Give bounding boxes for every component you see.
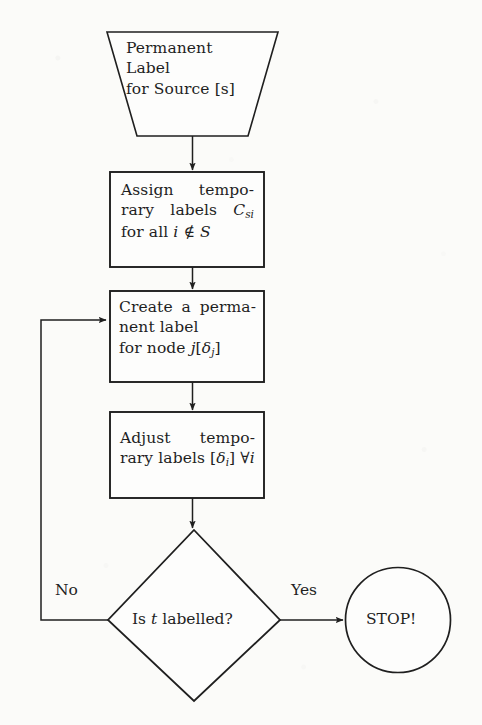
adjust-line-1-right: tempo- (200, 428, 255, 448)
adjust-line-2-close: ] (229, 449, 235, 467)
adjust-line-2-mid: labels (158, 449, 205, 467)
create-line-3-close: ] (214, 339, 220, 357)
create-line-1-mid: a (182, 297, 191, 317)
decision-node-text: Is t labelled? (132, 610, 233, 628)
assign-line-3-S: S (200, 223, 211, 241)
create-line-2: nent label (119, 317, 256, 337)
flowchart-canvas: Permanent Label for Source [s] Assign te… (0, 0, 482, 725)
create-line-1-right: perma- (200, 297, 256, 317)
assign-line-3-pre: for all (121, 223, 173, 241)
create-node-text: Create a perma- nent label for node j[δj… (119, 297, 256, 360)
adjust-line-2-left: rary (120, 449, 153, 467)
decision-text-post: labelled? (157, 610, 233, 628)
edge-label-no: No (55, 581, 78, 599)
adjust-line-1: Adjust tempo- (120, 428, 255, 448)
adjust-line-2-forall: ∀ (240, 449, 249, 467)
assign-line-1-right: tempo- (199, 180, 254, 200)
assign-line-2-mid: labels (170, 200, 217, 222)
adjust-line-2-i: i (250, 449, 255, 467)
create-line-3-delta: δ (202, 339, 211, 357)
start-node-text: Permanent Label for Source [s] (126, 38, 271, 99)
adjust-line-2: rary labels [δi] ∀i (120, 448, 255, 470)
create-line-1: Create a perma- (119, 297, 256, 317)
assign-line-3: for all i ∉ S (121, 222, 254, 242)
adjust-node-text: Adjust tempo- rary labels [δi] ∀i (120, 428, 255, 470)
start-line-2: Label (126, 58, 271, 78)
adjust-line-1-left: Adjust (120, 428, 171, 448)
decision-text-pre: Is (132, 610, 151, 628)
assign-line-2-left: rary (121, 200, 154, 222)
assign-line-2-math: Csi (233, 200, 254, 222)
assign-line-2: rary labels Csi (121, 200, 254, 222)
adjust-line-2-delta: δ (216, 449, 225, 467)
assign-node-text: Assign tempo- rary labels Csi for all i … (121, 180, 254, 243)
assign-line-1: Assign tempo- (121, 180, 254, 200)
start-line-1: Permanent (126, 38, 271, 58)
create-line-1-left: Create (119, 297, 173, 317)
stop-node-label: STOP! (366, 610, 416, 628)
create-line-3-pre: for node (119, 339, 191, 357)
assign-line-1-left: Assign (121, 180, 174, 200)
start-line-3: for Source [s] (126, 79, 271, 99)
edge-decision-no-to-create (41, 320, 108, 620)
create-line-3: for node j[δj] (119, 338, 256, 360)
edge-label-yes: Yes (291, 581, 317, 599)
assign-line-3-notin: ∉ (178, 223, 200, 241)
